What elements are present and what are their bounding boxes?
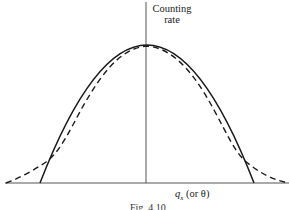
diagram-canvas (0, 0, 289, 210)
y-axis-label: Counting rate (151, 3, 193, 25)
y-axis-label-line2: rate (151, 14, 193, 25)
solid-parabolic-curve (40, 45, 254, 183)
x-axis-label-rest: (or θ) (183, 188, 209, 199)
y-axis-label-line1: Counting (151, 3, 193, 14)
x-axis-label: qx (or θ) (175, 188, 209, 204)
figure-caption: Fig. 4.10 (130, 202, 166, 210)
